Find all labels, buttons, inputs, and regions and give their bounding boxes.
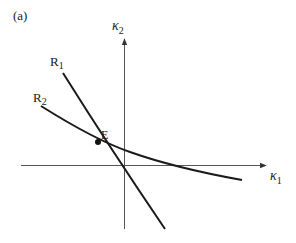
curve-r2 [41,106,242,180]
curve-r1 [63,73,165,229]
diagram: (a) κ1 κ2 R1 R2 E [0,0,296,243]
equilibrium-label: E [101,128,108,142]
curve-r2-label: R2 [33,90,47,107]
x-axis-label: κ1 [270,168,282,186]
curve-r1-label: R1 [50,54,64,71]
y-axis-label: κ2 [112,18,124,36]
panel-label: (a) [13,8,27,23]
